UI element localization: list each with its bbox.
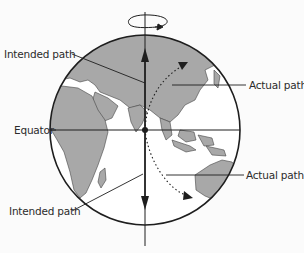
rotation-arrow-icon	[128, 15, 167, 30]
label-actual-path-south: Actual path	[246, 169, 304, 181]
label-actual-path-north: Actual path	[249, 79, 304, 91]
label-equator: Equator	[14, 124, 54, 136]
label-intended-path-north: Intended path	[4, 48, 75, 60]
label-intended-path-south: Intended path	[9, 205, 80, 217]
